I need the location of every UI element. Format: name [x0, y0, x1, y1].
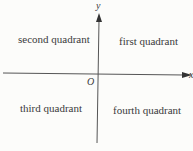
x-axis: [3, 73, 185, 75]
coordinate-axes: [0, 0, 193, 151]
second-quadrant-label: second quadrant: [18, 33, 90, 45]
fourth-quadrant-label: fourth quadrant: [113, 104, 181, 116]
third-quadrant-label: third quadrant: [20, 102, 82, 114]
first-quadrant-label: first quadrant: [119, 35, 178, 47]
y-axis-label: y: [96, 0, 100, 11]
x-axis-label: x: [189, 69, 193, 80]
origin-label: O: [87, 76, 94, 87]
y-axis-arrow-icon: [96, 13, 102, 22]
y-axis: [97, 20, 99, 143]
